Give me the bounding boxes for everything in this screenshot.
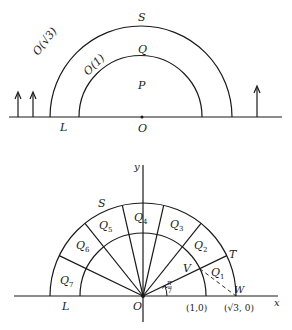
label-S: S xyxy=(138,11,146,24)
svg-text:3: 3 xyxy=(179,225,183,233)
svg-text:4: 4 xyxy=(143,218,148,226)
sector-label-Q4: Q 4 xyxy=(134,211,148,226)
svg-text:Q: Q xyxy=(170,218,179,231)
label-Q: Q xyxy=(138,43,147,56)
svg-text:2: 2 xyxy=(203,246,207,254)
up-arrow-icon xyxy=(15,92,21,117)
label-T: T xyxy=(229,248,238,261)
label-point-sqrt3-0: (√3, 0) xyxy=(224,303,254,313)
svg-text:Q: Q xyxy=(60,274,69,287)
label-point-1-0: (1,0) xyxy=(186,303,207,313)
svg-text:1: 1 xyxy=(220,273,224,281)
radial-line xyxy=(59,256,143,296)
angle-label-numerator: π xyxy=(166,279,172,287)
figure-b xyxy=(14,165,278,322)
label-outer-arc: O(√3) xyxy=(30,25,60,58)
up-arrow-icon xyxy=(30,92,36,117)
sector-label-Q7: Q 7 xyxy=(60,274,73,289)
label-O: O xyxy=(138,122,147,135)
svg-text:Q: Q xyxy=(76,239,85,252)
svg-text:Q: Q xyxy=(211,266,220,279)
origin-point xyxy=(141,294,145,298)
label-L: L xyxy=(59,121,67,134)
svg-text:7: 7 xyxy=(69,281,73,289)
svg-text:5: 5 xyxy=(108,226,112,234)
origin-dot xyxy=(141,116,144,119)
angle-label-denominator: 7 xyxy=(168,287,172,295)
axis-label-y: y xyxy=(133,161,140,172)
sector-label-Q6: Q 6 xyxy=(76,239,90,254)
svg-text:6: 6 xyxy=(85,246,90,254)
outer-semicircle xyxy=(50,26,232,117)
label-O: O xyxy=(133,300,142,313)
label-L: L xyxy=(61,300,69,313)
label-W: W xyxy=(234,284,245,295)
axis-label-x: x xyxy=(274,297,280,308)
diagram-canvas: O(√3) O(1) S Q P L O y x S T V W L O π 7… xyxy=(0,0,292,330)
label-P: P xyxy=(137,79,146,92)
up-arrow-icon xyxy=(254,86,260,117)
svg-text:Q: Q xyxy=(99,219,108,232)
sector-label-Q2: Q 2 xyxy=(194,239,207,254)
sector-label-Q5: Q 5 xyxy=(99,219,112,234)
sector-label-Q3: Q 3 xyxy=(170,218,183,233)
label-inner-arc: O(1) xyxy=(81,52,108,79)
svg-text:Q: Q xyxy=(134,211,143,224)
svg-text:Q: Q xyxy=(194,239,203,252)
label-V: V xyxy=(183,262,192,275)
label-S: S xyxy=(98,197,106,210)
sector-label-Q1: Q 1 xyxy=(211,266,224,281)
